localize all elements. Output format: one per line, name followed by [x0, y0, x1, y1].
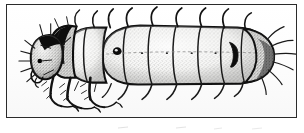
leg-3-tibia — [90, 99, 104, 107]
claw-3 — [116, 102, 122, 107]
abdomen-shading — [102, 26, 270, 85]
scan-artifacts — [0, 120, 304, 133]
dorsal-seta — [151, 7, 157, 26]
larva-illustration — [7, 5, 296, 117]
illustration-frame — [6, 4, 297, 118]
leg-1-tarsus — [62, 106, 73, 107]
ventral-seta — [192, 85, 202, 100]
spiracle-icon — [113, 47, 122, 55]
dorsal-seta — [176, 8, 182, 27]
artifact-mark — [176, 127, 186, 128]
leg-1-tibia — [51, 97, 62, 106]
figure-root — [0, 0, 304, 133]
head-group — [31, 35, 63, 87]
artifact-mark — [252, 128, 262, 129]
dorsal-seta — [109, 9, 114, 28]
dorsal-seta — [223, 9, 229, 28]
ventral-seta — [142, 85, 152, 100]
ventral-seta — [102, 84, 111, 98]
leg-3-tarsus — [104, 102, 116, 107]
artifact-mark — [214, 128, 222, 129]
spiracle-highlight — [115, 49, 118, 52]
artifact-mark — [118, 127, 128, 128]
ventral-seta — [215, 84, 225, 99]
dorsal-seta — [200, 8, 206, 27]
leg-2-tarsus — [81, 107, 94, 109]
abdomen-group — [102, 26, 270, 85]
claw-2 — [94, 107, 100, 112]
dorsal-seta — [127, 8, 133, 27]
leg-3-setae — [80, 84, 89, 100]
ventral-seta — [118, 85, 128, 100]
dorsal-seta — [93, 11, 98, 28]
leg-2-femur — [67, 78, 70, 100]
ventral-seta — [167, 85, 177, 100]
dorsal-seta — [245, 13, 252, 30]
dorsal-seta — [75, 10, 80, 27]
